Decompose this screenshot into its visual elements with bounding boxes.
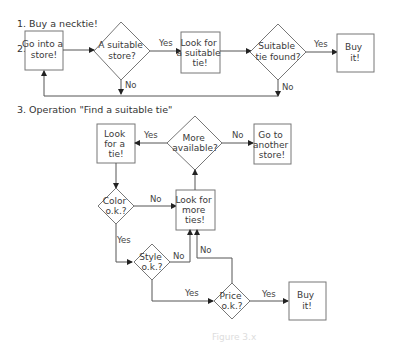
section-1-heading: 1. Buy a necktie! xyxy=(17,18,98,29)
edge-label-yes: Yes xyxy=(116,235,131,245)
decision-style-ok-label: Style o.k.? xyxy=(139,252,164,272)
loop-back-line xyxy=(44,71,278,96)
edge-label-yes: Yes xyxy=(143,130,158,140)
figure-caption: Figure 3.x xyxy=(212,332,257,342)
section-3-heading: 3. Operation "Find a suitable tie" xyxy=(17,104,172,115)
edge-label-no: No xyxy=(173,251,185,261)
edge-label-yes: Yes xyxy=(313,39,328,49)
edge-label-no: No xyxy=(232,130,244,140)
arrow-style-yes xyxy=(152,280,213,301)
edge-label-no: No xyxy=(282,82,294,92)
decision-color-ok-label: Color o.k.? xyxy=(103,196,129,216)
arrow-price-no xyxy=(197,230,232,283)
decision-tie-found-label: Suitable tie found? xyxy=(256,41,301,62)
edge-label-yes: Yes xyxy=(261,289,276,299)
decision-price-ok-label: Price o.k.? xyxy=(220,291,245,311)
flowchart-canvas: 1. Buy a necktie! 2. 3. Operation "Find … xyxy=(0,0,395,342)
edge-label-no: No xyxy=(200,245,212,255)
edge-label-no: No xyxy=(150,194,162,204)
edge-label-yes: Yes xyxy=(158,38,173,48)
edge-label-no: No xyxy=(125,80,137,90)
edge-label-yes: Yes xyxy=(184,288,199,298)
